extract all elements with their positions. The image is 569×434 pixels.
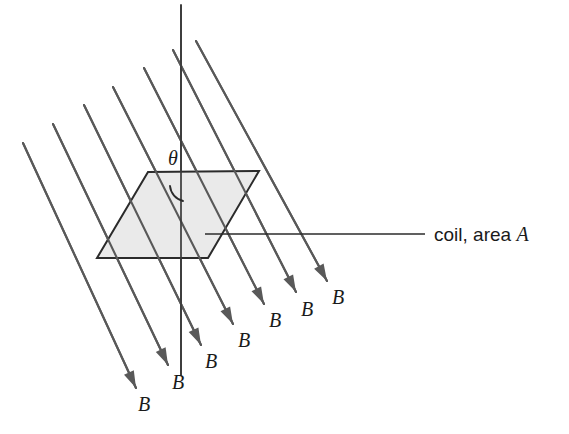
field-magnitude-label: B xyxy=(205,350,217,372)
coil-area-label: coil, area A xyxy=(434,223,529,245)
field-magnitude-label: B xyxy=(138,393,150,415)
field-magnitude-label: B xyxy=(269,309,281,331)
diagram-background xyxy=(0,0,569,434)
field-magnitude-label: B xyxy=(301,298,313,320)
physics-diagram-figure: BBBBBBB θ coil, area A xyxy=(0,0,569,434)
theta-label: θ xyxy=(168,147,178,169)
field-magnitude-label: B xyxy=(332,286,344,308)
diagram-canvas: BBBBBBB θ coil, area A xyxy=(0,0,569,434)
field-magnitude-label: B xyxy=(238,329,250,351)
field-magnitude-label: B xyxy=(172,371,184,393)
